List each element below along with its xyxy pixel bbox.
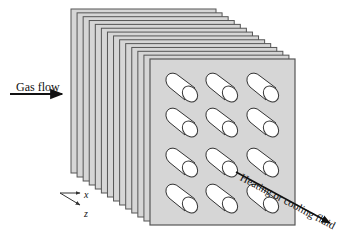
z-axis-arrow [60,193,80,205]
gas-flow-label: Gas flow [16,80,60,95]
x-axis-label: x [84,189,88,200]
z-axis-label: z [84,208,88,219]
axis-indicator [60,193,80,205]
